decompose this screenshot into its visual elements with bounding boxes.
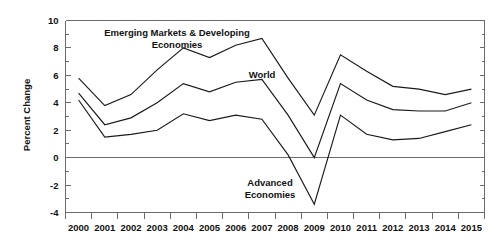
x-tick-label: 2006: [225, 222, 246, 233]
x-tick-label: 2005: [199, 222, 221, 233]
y-tick-label: 2: [53, 125, 58, 136]
y-axis-tick-labels: -4-20246810: [48, 15, 59, 218]
x-tick-label: 2007: [251, 222, 272, 233]
advanced-economies-label-line2: Economies: [245, 189, 296, 200]
x-axis-tick-labels: 2000200120022003200420052006200720082009…: [68, 222, 483, 233]
x-tick-label: 2014: [435, 222, 457, 233]
emerging-markets-label-line1: Emerging Markets & Developing: [104, 27, 250, 38]
series-line-1: [79, 79, 472, 157]
x-tick-label: 2009: [304, 222, 325, 233]
x-tick-label: 2003: [147, 222, 168, 233]
y-tick-label: -4: [50, 207, 59, 218]
x-tick-label: 2011: [356, 222, 377, 233]
x-axis-ticks: [66, 213, 485, 219]
world-label-line1: World: [249, 69, 276, 80]
x-tick-label: 2002: [120, 222, 141, 233]
x-tick-label: 2008: [278, 222, 299, 233]
y-tick-label: 8: [53, 42, 58, 53]
y-tick-label: -2: [50, 180, 58, 191]
series-annotations: Emerging Markets & DevelopingEconomiesWo…: [104, 27, 295, 200]
x-tick-label: 2004: [173, 222, 195, 233]
y-tick-label: 10: [48, 15, 59, 26]
y-tick-label: 4: [53, 97, 59, 108]
emerging-markets-label: Emerging Markets & DevelopingEconomies: [104, 27, 250, 50]
x-tick-label: 2010: [330, 222, 351, 233]
x-tick-label: 2015: [461, 222, 483, 233]
x-tick-label: 2012: [382, 222, 403, 233]
line-chart: -4-20246810 2000200120022003200420052006…: [0, 0, 504, 250]
y-axis-title: Percent Change: [21, 79, 32, 151]
x-tick-label: 2001: [94, 222, 116, 233]
world-label: World: [249, 69, 276, 80]
chart-container: -4-20246810 2000200120022003200420052006…: [0, 0, 504, 250]
advanced-economies-label-line1: Advanced: [247, 177, 293, 188]
x-tick-label: 2000: [68, 222, 89, 233]
x-tick-label: 2013: [408, 222, 429, 233]
y-tick-label: 6: [53, 70, 58, 81]
emerging-markets-label-line2: Economies: [152, 39, 203, 50]
advanced-economies-label: AdvancedEconomies: [245, 177, 296, 200]
y-tick-label: 0: [53, 152, 58, 163]
